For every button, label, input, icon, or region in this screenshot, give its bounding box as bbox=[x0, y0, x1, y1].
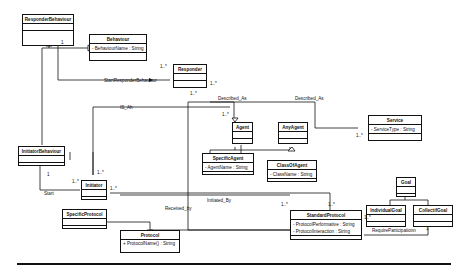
class-operations bbox=[63, 226, 106, 231]
mult-responder-top: 1..* bbox=[160, 64, 167, 69]
class-name: Responder bbox=[174, 65, 206, 74]
label-is-ah: IS_Ah bbox=[120, 105, 133, 110]
class-attributes: - AgentName : String bbox=[203, 163, 253, 172]
class-name: InitiatorBehaviour bbox=[19, 147, 64, 156]
label-described-as-1: Described_As bbox=[218, 96, 247, 101]
class-attributes: - ClassName : String bbox=[268, 170, 316, 179]
class-operations bbox=[279, 139, 307, 144]
class-name: Initiator bbox=[82, 181, 106, 190]
class-specific-agent[interactable]: SpecificAgent - AgentName : String bbox=[202, 153, 254, 175]
class-name: Behaviour bbox=[90, 35, 146, 44]
class-any-agent[interactable]: AnyAgent bbox=[278, 122, 308, 144]
mult-initiator-right: 1..* bbox=[110, 186, 117, 191]
class-name: Protocol bbox=[121, 231, 179, 240]
class-attributes bbox=[19, 156, 64, 163]
class-attributes bbox=[397, 187, 415, 194]
class-attributes bbox=[174, 74, 206, 81]
mult-cg: 1 bbox=[426, 226, 429, 231]
mult-responder-right: 1..* bbox=[210, 81, 217, 86]
class-name: SpecificProtocol bbox=[63, 210, 106, 219]
class-goal[interactable]: Goal bbox=[396, 177, 416, 197]
mult-agent-left: 1..* bbox=[222, 112, 229, 117]
class-attributes bbox=[233, 132, 252, 139]
mult-sp-right: 1..* bbox=[364, 215, 371, 220]
class-name: IndividualGoal bbox=[367, 206, 405, 215]
class-name: StandardProtocol bbox=[291, 211, 361, 220]
class-collectif-goal[interactable]: CollectifGoal bbox=[413, 205, 453, 227]
class-attribute-interaction: - ProtocolInteraction : String bbox=[291, 228, 361, 236]
class-attributes bbox=[367, 215, 405, 222]
class-attributes: - ServiceType : String bbox=[369, 125, 421, 134]
class-agent[interactable]: Agent bbox=[232, 122, 253, 144]
class-responder[interactable]: Responder bbox=[173, 64, 207, 88]
class-attributes: - BehaviourName : String bbox=[90, 44, 146, 53]
mult-sp-top-left: 1..* bbox=[281, 202, 288, 207]
mult-service-left: 1..* bbox=[356, 133, 363, 138]
class-attributes bbox=[279, 132, 307, 139]
label-described-as-2: Described_As bbox=[295, 96, 324, 101]
class-attributes bbox=[23, 24, 73, 31]
class-protocol[interactable]: Protocol + ProtocolName() : String bbox=[120, 230, 180, 253]
class-standard-protocol[interactable]: StandardProtocol - ProtocolPerformative … bbox=[290, 210, 362, 240]
class-responder-behaviour[interactable]: ResponderBehaviour bbox=[22, 14, 74, 46]
label-require-participation: RequireParticipationn bbox=[372, 228, 416, 233]
class-name: CollectifGoal bbox=[414, 206, 452, 215]
class-specific-protocol[interactable]: SpecificProtocol bbox=[62, 209, 107, 229]
mult-agent-top: 1..* bbox=[190, 91, 197, 96]
class-name: Service bbox=[369, 116, 421, 125]
bottom-rule bbox=[17, 263, 451, 265]
class-operations bbox=[174, 81, 206, 86]
mult-rb: 1 bbox=[61, 40, 64, 45]
class-name: ClassOfAgent bbox=[268, 161, 316, 170]
label-initiated-by: Initiated_By bbox=[207, 198, 231, 203]
class-name: ResponderBehaviour bbox=[23, 15, 73, 24]
class-service[interactable]: Service - ServiceType : String bbox=[368, 115, 422, 141]
class-initiator[interactable]: Initiator bbox=[81, 180, 107, 200]
class-operations: + ProtocolName() : String bbox=[121, 240, 179, 247]
mult-ib: 1 bbox=[47, 172, 50, 177]
class-attributes bbox=[82, 190, 106, 197]
mult-initiator-left: 1..* bbox=[72, 179, 79, 184]
class-initiator-behaviour[interactable]: InitiatorBehaviour bbox=[18, 146, 65, 166]
class-operations bbox=[82, 197, 106, 202]
class-attributes bbox=[63, 219, 106, 226]
class-name: AnyAgent bbox=[279, 123, 307, 132]
class-individual-goal[interactable]: IndividualGoal bbox=[366, 205, 406, 227]
label-received-by: Received_by bbox=[165, 206, 192, 211]
class-attribute-performative: - ProtocolPerformative : String bbox=[291, 220, 361, 228]
mult-initiator-top: 1..* bbox=[97, 170, 104, 175]
class-name: Goal bbox=[397, 178, 415, 187]
label-start-responder-behaviour: StartResponderBehaviour bbox=[104, 78, 157, 83]
class-name: Agent bbox=[233, 123, 252, 132]
class-attributes bbox=[414, 215, 452, 222]
class-operations bbox=[23, 31, 73, 36]
class-operations bbox=[90, 53, 146, 58]
class-behaviour[interactable]: Behaviour - BehaviourName : String bbox=[89, 34, 147, 61]
label-start: Start bbox=[44, 191, 54, 196]
class-operations bbox=[233, 139, 252, 144]
class-name: SpecificAgent bbox=[203, 154, 253, 163]
class-operations bbox=[19, 163, 64, 168]
mult-sp-top-right: 1..* bbox=[328, 202, 335, 207]
class-class-of-agent[interactable]: ClassOfAgent - ClassName : String bbox=[267, 160, 317, 182]
